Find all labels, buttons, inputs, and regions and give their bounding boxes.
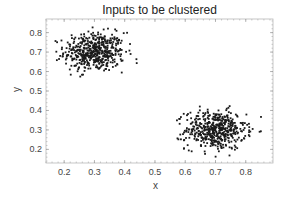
scatter-series-cluster-1 xyxy=(55,27,138,78)
plot-area: 0.20.30.40.50.60.70.80.20.30.40.50.60.70… xyxy=(0,0,284,197)
y-tick-label: 0.7 xyxy=(29,47,42,57)
x-axis-label: x xyxy=(153,180,158,191)
minor-ticks xyxy=(46,19,273,163)
scatter-series-cluster-2 xyxy=(176,105,262,157)
y-tick-label: 0.6 xyxy=(29,67,42,77)
x-tick-label: 0.8 xyxy=(240,167,253,177)
x-tick-label: 0.7 xyxy=(209,167,222,177)
y-axis: 0.20.30.40.50.60.70.8 xyxy=(29,28,273,155)
x-tick-label: 0.6 xyxy=(179,167,192,177)
x-tick-label: 0.4 xyxy=(118,167,131,177)
y-tick-label: 0.2 xyxy=(29,144,42,154)
y-tick-label: 0.8 xyxy=(29,28,42,38)
y-tick-label: 0.5 xyxy=(29,86,42,96)
x-tick-label: 0.5 xyxy=(149,167,162,177)
x-tick-label: 0.3 xyxy=(88,167,101,177)
y-tick-label: 0.3 xyxy=(29,125,42,135)
plot-frame xyxy=(46,19,273,163)
y-axis-label: y xyxy=(11,87,22,92)
x-tick-label: 0.2 xyxy=(58,167,71,177)
y-tick-label: 0.4 xyxy=(29,105,42,115)
